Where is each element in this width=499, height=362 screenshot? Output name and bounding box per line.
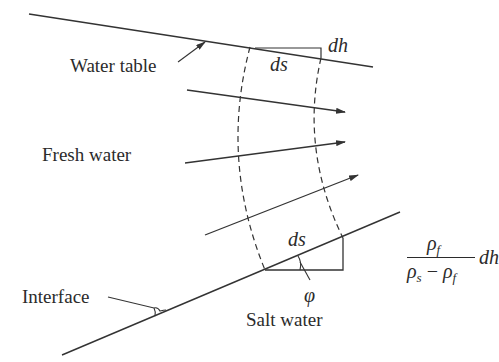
dh-top-label: dh (328, 35, 348, 55)
interface-leader (108, 297, 166, 311)
dh-right-angle (255, 48, 321, 58)
ds-top-label: ds (270, 54, 288, 74)
water-table-label: Water table (70, 56, 157, 75)
formula-multiplier: dh (479, 246, 499, 269)
dashed-boundary-right (314, 58, 343, 238)
ds-bottom-label: ds (288, 229, 306, 249)
interface-leader-hook (154, 308, 155, 316)
flow-arrow-2 (185, 142, 345, 163)
flow-arrow-3 (205, 175, 358, 235)
formula-denominator: ρs − ρf (407, 260, 456, 286)
flow-arrow-1 (187, 90, 345, 112)
interface-line (62, 212, 400, 355)
phi-leader (300, 262, 310, 280)
formula-numerator: ρf (427, 232, 440, 258)
interface-label: Interface (22, 287, 90, 306)
formula-fraction-bar (407, 257, 475, 258)
water-table-leader-arrow (178, 42, 205, 62)
dashed-boundary-left (238, 47, 265, 270)
fresh-water-label: Fresh water (42, 145, 131, 164)
phi-label: φ (304, 285, 315, 305)
salt-water-label: Salt water (246, 310, 323, 329)
